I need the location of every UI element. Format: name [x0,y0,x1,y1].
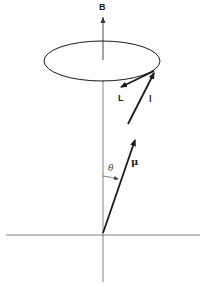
mu-vector-label: μ [131,157,138,167]
theta-angle-label: θ [108,164,113,173]
mu-vector [103,140,135,233]
b-field-label: B [99,3,106,12]
precession-ellipse [44,41,160,81]
L-vector-label: L [118,94,124,103]
l-vector-label: l [149,95,152,104]
theta-arc-arrow [103,176,118,179]
precession-diagram [0,0,203,286]
